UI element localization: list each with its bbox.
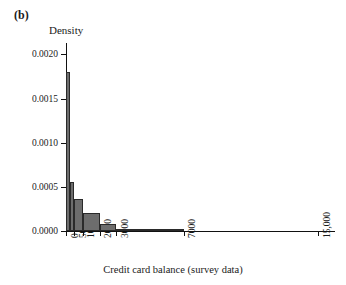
x-axis-tick xyxy=(66,231,67,236)
y-axis-tick-label: 0.0015 xyxy=(14,94,58,104)
panel-label: (b) xyxy=(14,8,29,23)
y-axis-tick-label: 0.0020 xyxy=(14,49,58,59)
y-axis-tick-label: 0.0010 xyxy=(14,138,58,148)
x-axis-title: Credit card balance (survey data) xyxy=(0,264,346,275)
figure-panel-b: (b) Density 0.00000.00050.00100.00150.00… xyxy=(0,0,346,285)
y-axis-title: Density xyxy=(49,24,83,36)
x-axis-tick xyxy=(116,231,117,236)
y-axis-tick xyxy=(61,54,67,55)
x-axis-tick-label: 7000 xyxy=(187,219,197,238)
x-axis-tick xyxy=(318,231,319,236)
x-axis-tick-label: 15,000 xyxy=(322,212,332,238)
histogram-bar xyxy=(83,213,100,231)
y-axis-tick-label: 0.0000 xyxy=(14,226,58,236)
y-axis-tick-label: 0.0005 xyxy=(14,182,58,192)
x-axis-tick xyxy=(83,231,84,236)
x-axis-tick xyxy=(74,231,75,236)
histogram-bar xyxy=(100,224,117,231)
x-axis-tick xyxy=(184,231,185,236)
histogram-bar xyxy=(74,199,82,231)
x-axis-tick xyxy=(100,231,101,236)
histogram-bar xyxy=(116,229,183,231)
